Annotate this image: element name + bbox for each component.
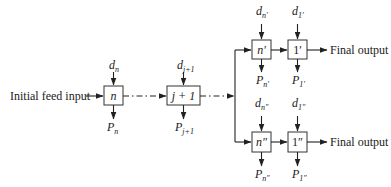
product-label-j-plus-1: Pj+1 bbox=[174, 120, 194, 136]
stage-label-n-prime: n′ bbox=[257, 43, 266, 57]
feed-label-1-prime: d1′ bbox=[292, 4, 304, 20]
product-label-n: Pn bbox=[106, 120, 118, 136]
stage-label-1-double-prime: 1″ bbox=[292, 135, 303, 149]
product-label-1-double-prime: P1″ bbox=[291, 167, 307, 183]
stage-label-n: n bbox=[111, 89, 117, 103]
stage-n-prime: n′ dn′ Pn′ bbox=[252, 4, 271, 89]
stage-1-prime: 1′ d1′ P1′ bbox=[288, 4, 307, 89]
stage-j-plus-1: j + 1 dj+1 Pj+1 bbox=[167, 58, 200, 136]
final-output-label-lower: Final output bbox=[330, 135, 389, 149]
stage-1-double-prime: 1″ d1″ P1″ bbox=[288, 96, 307, 183]
process-flow-diagram: Initial feed input n dn Pn j + 1 dj+1 Pj… bbox=[0, 0, 391, 187]
stage-n: n dn Pn bbox=[104, 58, 123, 136]
feed-label-j-plus-1: dj+1 bbox=[177, 58, 195, 74]
stage-label-n-double-prime: n″ bbox=[256, 135, 268, 149]
product-label-n-double-prime: Pn″ bbox=[254, 167, 270, 183]
feed-label-n-prime: dn′ bbox=[256, 4, 268, 20]
feed-label-1-double-prime: d1″ bbox=[292, 96, 306, 112]
initial-feed-input-label: Initial feed input bbox=[10, 89, 91, 103]
stage-n-double-prime: n″ dn″ Pn″ bbox=[252, 96, 271, 183]
stage-label-j-plus-1: j + 1 bbox=[170, 89, 195, 103]
product-label-n-prime: Pn′ bbox=[255, 73, 269, 89]
feed-label-n: dn bbox=[109, 58, 119, 74]
stage-label-1-prime: 1′ bbox=[293, 43, 302, 57]
product-label-1-prime: P1′ bbox=[291, 73, 305, 89]
final-output-label-upper: Final output bbox=[330, 43, 389, 57]
feed-label-n-double-prime: dn″ bbox=[255, 96, 269, 112]
